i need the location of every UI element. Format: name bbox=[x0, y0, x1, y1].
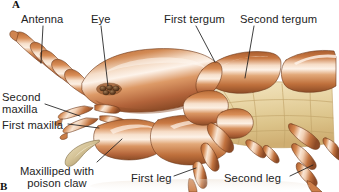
label-first-maxilla: First maxilla bbox=[2, 119, 63, 131]
label-second-maxilla: Second maxilla bbox=[2, 91, 68, 116]
label-first-leg: First leg bbox=[131, 172, 172, 184]
label-second-leg: Second leg bbox=[224, 172, 281, 184]
label-maxilliped-line2: poison claw bbox=[27, 177, 87, 189]
eye-ocelli bbox=[97, 83, 122, 95]
leader-first-leg bbox=[174, 168, 196, 176]
label-antenna: Antenna bbox=[21, 13, 63, 25]
panel-label-b: B bbox=[0, 180, 7, 192]
rear-leg-stub bbox=[323, 138, 339, 160]
label-maxilliped-poison-claw: Maxilliped with poison claw bbox=[12, 165, 102, 190]
label-first-tergum: First tergum bbox=[164, 13, 225, 25]
label-second-tergum: Second tergum bbox=[240, 13, 317, 25]
label-second-maxilla-line2: maxilla bbox=[2, 103, 38, 115]
panel-label-a: A bbox=[12, 0, 20, 10]
label-eye: Eye bbox=[91, 13, 111, 25]
label-maxilliped-line1: Maxilliped with bbox=[20, 165, 94, 177]
label-second-maxilla-line1: Second bbox=[2, 91, 41, 103]
anatomy-figure: A B Antenna Eye First tergum Second terg… bbox=[0, 0, 339, 192]
